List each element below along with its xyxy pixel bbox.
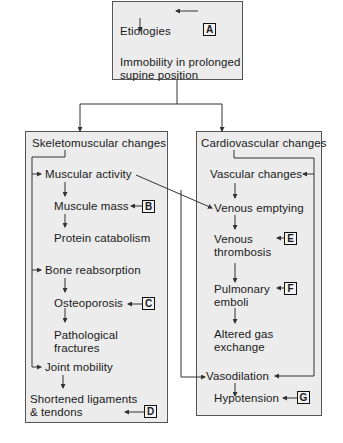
- vascular-changes-node: Vascular changes: [210, 168, 302, 181]
- cardiovascular-title: Cardiovascular changes: [201, 137, 327, 150]
- venous-thrombosis-line2: thrombosis: [214, 246, 271, 259]
- label-d: D: [144, 405, 157, 418]
- muscle-mass-node: Muscule mass: [54, 200, 129, 213]
- venous-emptying-node: Venous emptying: [214, 202, 304, 215]
- venous-thrombosis-line1: Venous: [214, 233, 253, 246]
- altered-gas-exchange-line1: Altered gas: [214, 328, 273, 341]
- label-a: A: [203, 23, 216, 36]
- osteoporosis-node: Osteoporosis: [54, 297, 123, 310]
- label-b: B: [142, 200, 155, 213]
- muscular-activity-node: Muscular activity: [45, 168, 132, 181]
- joint-mobility-node: Joint mobility: [45, 361, 113, 374]
- shortened-ligaments-line2: & tendons: [30, 406, 83, 419]
- hypotension-node: Hypotension: [214, 392, 279, 405]
- label-g: G: [297, 391, 310, 404]
- pathological-fractures-line1: Pathological: [54, 329, 118, 342]
- label-f: F: [284, 282, 297, 295]
- protein-catabolism-node: Protein catabolism: [54, 232, 150, 245]
- pathological-fractures-line2: fractures: [54, 342, 100, 355]
- label-e: E: [284, 232, 297, 245]
- pulmonary-emboli-line1: Pulmonary: [214, 283, 270, 296]
- immobility-node-line1: Immobility in prolonged: [120, 56, 241, 69]
- etiologies-node: Etiologies: [120, 25, 171, 38]
- immobility-node-line2: supine position: [120, 69, 198, 82]
- vasodilation-node: Vasodilation: [206, 370, 269, 383]
- shortened-ligaments-line1: Shortened ligaments: [30, 393, 137, 406]
- altered-gas-exchange-line2: exchange: [214, 341, 265, 354]
- skeletomuscular-title: Skeletomuscular changes: [32, 137, 166, 150]
- bone-reabsorption-node: Bone reabsorption: [45, 264, 141, 277]
- label-c: C: [142, 297, 155, 310]
- pulmonary-emboli-line2: emboli: [214, 296, 248, 309]
